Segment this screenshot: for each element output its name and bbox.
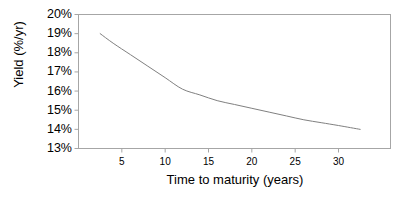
yield-curve-chart: Yield (%/yr) 13%14%15%16%17%18%19%20% 51… [0,0,402,202]
x-axis-title: Time to maturity (years) [78,172,392,187]
y-axis-tick-marks [75,15,79,149]
plot-frame [79,15,391,149]
x-axis-tick-marks [122,149,339,153]
